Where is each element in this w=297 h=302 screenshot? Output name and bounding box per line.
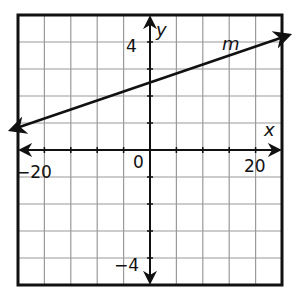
axes — [18, 15, 282, 285]
x-max-label: 20 — [244, 156, 266, 176]
x-min-label: −20 — [16, 162, 52, 182]
y-axis-label: y — [155, 19, 167, 40]
y-min-label: −4 — [114, 255, 139, 275]
y-max-label: 4 — [126, 36, 137, 56]
x-axis-label: x — [263, 119, 275, 140]
origin-label: 0 — [133, 152, 144, 172]
line-m-label: m — [222, 33, 240, 54]
coordinate-graph: −20 20 0 4 −4 x y m — [0, 0, 297, 302]
